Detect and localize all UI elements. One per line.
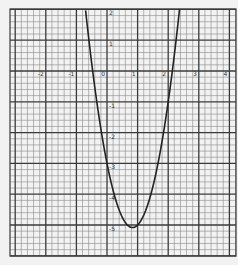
y-tick-label: -5 [109, 225, 115, 232]
y-tick-label: -2 [109, 133, 115, 140]
y-tick-label: 2 [109, 9, 113, 16]
y-tick-label: 1 [109, 40, 113, 47]
x-tick-label: 4 [224, 70, 228, 77]
x-tick-label: 0 [101, 70, 105, 77]
x-tick-label: 1 [132, 70, 136, 77]
x-tick-label: -1 [68, 70, 74, 77]
x-tick-label: 3 [193, 70, 197, 77]
y-tick-label: -1 [109, 102, 115, 109]
parabola-graph: -2-10123421-1-2-3-4-5 [0, 0, 238, 265]
x-tick-label: 2 [162, 70, 166, 77]
y-tick-label: -3 [109, 163, 115, 170]
x-tick-label: -2 [38, 70, 44, 77]
